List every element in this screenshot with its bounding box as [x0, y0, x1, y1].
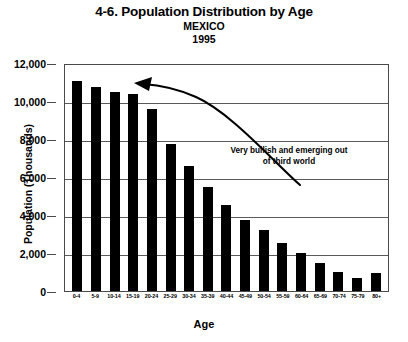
x-axis-tick-label: 70-74: [332, 293, 345, 299]
x-axis-tick: 75-79: [348, 293, 367, 309]
bar: [277, 243, 287, 291]
x-axis-tick: 35-39: [198, 293, 217, 309]
x-axis-tick-label: 5-9: [91, 293, 99, 299]
bar: [203, 187, 213, 292]
bar-slot: [87, 65, 106, 291]
bar-slot: [329, 65, 348, 291]
x-axis-tick: 55-59: [273, 293, 292, 309]
x-axis-tick-label: 65-69: [314, 293, 327, 299]
x-axis-tick: 25-29: [161, 293, 180, 309]
x-axis-tick: 60-64: [292, 293, 311, 309]
plot-area: [64, 64, 389, 292]
x-axis-tick: 5-9: [86, 293, 105, 309]
bar-slot: [161, 65, 180, 291]
bar: [147, 109, 157, 291]
bar: [259, 230, 269, 291]
bar: [240, 220, 250, 291]
x-axis-tick: 70-74: [330, 293, 349, 309]
y-axis-tick-mark: [47, 178, 56, 179]
x-axis-tick: 50-54: [255, 293, 274, 309]
y-axis-tick-label: 10,000: [14, 96, 46, 108]
bar-slot: [68, 65, 87, 291]
bar-slot: [124, 65, 143, 291]
y-axis-tick-mark: [47, 102, 56, 103]
bar: [221, 205, 231, 291]
x-axis-tick-label: 75-79: [351, 293, 364, 299]
x-axis-tick-label: 25-29: [164, 293, 177, 299]
x-axis-label: Age: [0, 318, 408, 330]
bar-slot: [254, 65, 273, 291]
bar-slot: [292, 65, 311, 291]
y-axis-tick-mark: [47, 140, 56, 141]
x-axis-tick-label: 55-59: [276, 293, 289, 299]
bar-slot: [105, 65, 124, 291]
y-axis-tick-label: 12,000: [14, 58, 46, 70]
bar: [333, 272, 343, 291]
x-axis-tick-label: 80+: [372, 293, 381, 299]
x-axis-tick: 80+: [367, 293, 386, 309]
x-axis-tick-label: 40-44: [220, 293, 233, 299]
bar: [166, 144, 176, 291]
bar-slot: [180, 65, 199, 291]
bar: [371, 273, 381, 291]
y-axis-tick-label: 0: [40, 286, 46, 298]
chart-annotation: Very bullish and emerging out of third w…: [228, 146, 350, 167]
y-axis-tick-mark: [47, 254, 56, 255]
chart-figure: 4-6. Population Distribution by Age MEXI…: [0, 0, 408, 342]
bar-slot: [143, 65, 162, 291]
y-axis-tick-label: 2,000: [20, 248, 46, 260]
x-axis-tick: 45-49: [236, 293, 255, 309]
x-axis-tick-label: 35-39: [201, 293, 214, 299]
x-axis-tick: 10-14: [105, 293, 124, 309]
bar-slot: [366, 65, 385, 291]
bar: [315, 263, 325, 292]
x-axis-tick-label: 60-64: [295, 293, 308, 299]
x-axis-tick: 40-44: [217, 293, 236, 309]
y-axis-tick-mark: [47, 64, 56, 65]
bar-slot: [198, 65, 217, 291]
y-axis-tick-label: 6,000: [20, 172, 46, 184]
x-axis-tick-label: 0-4: [73, 293, 81, 299]
bar-slot: [310, 65, 329, 291]
x-axis-ticks: 0-45-910-1415-1920-2425-2930-3435-3940-4…: [64, 293, 389, 309]
y-axis: Population (Thousands) 12,00010,0008,000…: [0, 0, 64, 342]
bar: [296, 253, 306, 291]
y-axis-tick-label: 8,000: [20, 134, 46, 146]
bar-slot: [348, 65, 367, 291]
bar-series: [65, 65, 388, 291]
x-axis-tick-label: 20-24: [145, 293, 158, 299]
x-axis-tick-label: 50-54: [257, 293, 270, 299]
x-axis-tick: 30-34: [180, 293, 199, 309]
y-axis-tick-mark: [47, 216, 56, 217]
bar-slot: [217, 65, 236, 291]
bar: [91, 87, 101, 291]
x-axis-tick: 0-4: [67, 293, 86, 309]
x-axis-tick-label: 15-19: [126, 293, 139, 299]
bar-slot: [236, 65, 255, 291]
y-axis-tick-mark: [47, 292, 56, 293]
x-axis-tick: 65-69: [311, 293, 330, 309]
bar: [128, 94, 138, 291]
y-axis-tick-label: 4,000: [20, 210, 46, 222]
y-axis-label: Population (Thousands): [22, 94, 34, 274]
bar: [352, 278, 362, 291]
bar-slot: [273, 65, 292, 291]
x-axis-tick-label: 30-34: [182, 293, 195, 299]
x-axis-tick-label: 10-14: [107, 293, 120, 299]
x-axis-tick: 20-24: [142, 293, 161, 309]
x-axis-tick: 15-19: [123, 293, 142, 309]
bar: [110, 92, 120, 292]
x-axis-tick-label: 45-49: [239, 293, 252, 299]
bar: [72, 81, 82, 291]
bar: [184, 166, 194, 291]
